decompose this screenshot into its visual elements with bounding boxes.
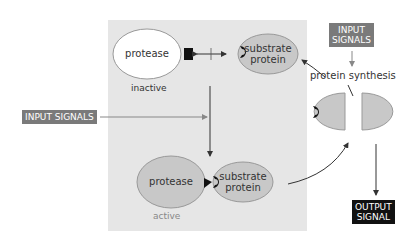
active-state-label: active — [153, 211, 180, 221]
inactive-protease-label: protease — [113, 48, 181, 59]
protein-synthesis-label: protein synthesis — [310, 70, 396, 81]
substrate-bottom-label: substrate protein — [213, 171, 273, 193]
substrate-top-label: substrate protein — [238, 43, 298, 65]
input-signals-left-box: INPUT SIGNALS — [22, 110, 97, 124]
inhibitor-block — [184, 48, 193, 60]
inactive-state-label: inactive — [131, 83, 167, 93]
output-signal-box: OUTPUT SIGNAL — [352, 200, 395, 224]
active-site — [204, 178, 212, 188]
cleaved-right-half — [362, 93, 393, 130]
active-protease-label: protease — [137, 176, 205, 187]
input-signals-top-box: INPUT SIGNALS — [329, 23, 374, 47]
